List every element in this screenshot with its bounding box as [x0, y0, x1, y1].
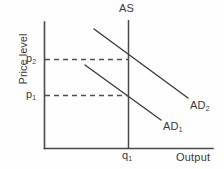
as-curve-label-text: AS	[119, 2, 134, 14]
y-tick-p1: p1	[26, 89, 36, 100]
y-axis-label: Price level	[13, 23, 27, 95]
y-tick-p2-sub: 2	[32, 58, 36, 65]
ad2-curve-label: AD2	[190, 100, 209, 111]
as-curve-label: AS	[119, 3, 134, 14]
ad2-curve-label-sub: 2	[206, 105, 210, 112]
ad1-curve-label-sub: 1	[179, 126, 183, 133]
ad2-curve	[94, 29, 188, 98]
x-tick-q1-sub: 1	[128, 155, 132, 162]
ad1-curve-label: AD1	[163, 121, 182, 132]
ad2-curve-label-base: AD	[190, 99, 206, 111]
ad1-curve-label-base: AD	[163, 120, 179, 132]
ad-as-diagram: Price level p2 p1 q1 AS AD2 AD1 Output	[0, 0, 224, 169]
ad1-curve	[85, 65, 161, 120]
x-axis-label-text: Output	[176, 151, 210, 163]
x-axis-label: Output	[176, 152, 210, 163]
chart-canvas	[0, 0, 224, 169]
y-tick-p2: p2	[26, 53, 36, 64]
x-tick-q1: q1	[122, 150, 132, 161]
y-tick-p1-sub: 1	[32, 94, 36, 101]
